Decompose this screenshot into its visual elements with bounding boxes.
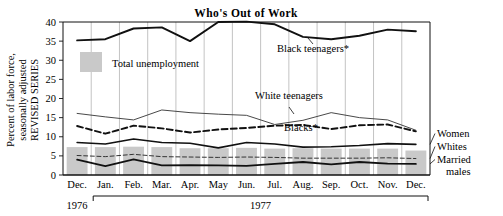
right-series-label: Whites (437, 141, 467, 152)
total-unemployment-bar (321, 149, 342, 175)
y-axis-tick-label: 30 (46, 55, 57, 66)
total-unemployment-bar (208, 148, 229, 175)
right-series-label: males (446, 166, 471, 177)
x-axis-month-label: Apr. (181, 179, 199, 190)
x-axis-year-label: 1977 (250, 200, 271, 211)
series-annotation: Black teenagers* (277, 43, 349, 54)
total-unemployment-bar (264, 149, 285, 175)
unemployment-line-chart: Who's Out of Work Percent of labor force… (0, 0, 503, 216)
right-series-label: Women (437, 128, 470, 139)
x-axis-month-label: Aug. (293, 179, 314, 190)
x-axis-month-label: Oct. (351, 179, 369, 190)
x-axis-month-label: Feb. (124, 179, 142, 190)
x-axis-month-label: Jan. (97, 179, 114, 190)
x-axis-month-label: Dec. (406, 179, 426, 190)
x-axis-month-label: Jun. (238, 179, 255, 190)
y-axis-label-line3: REVISED SERIES (29, 59, 40, 141)
right-series-label: Married (437, 154, 472, 165)
x-axis-month-label: Nov. (378, 179, 398, 190)
y-axis-tick-label: 20 (46, 93, 57, 104)
y-axis-tick-label: 5 (51, 150, 56, 161)
chart-title: Who's Out of Work (194, 7, 298, 19)
total-unemployment-bar (405, 151, 426, 175)
y-axis-label-line1: Percent of labor force, (5, 53, 16, 147)
x-axis-month-label: Jul. (267, 179, 282, 190)
series-annotation: Blacks* (284, 122, 318, 133)
y-axis-tick-label: 25 (46, 74, 57, 85)
legend-label-total-unemployment: Total unemployment (112, 58, 199, 69)
total-unemployment-bar (377, 149, 398, 175)
y-axis-tick-label: 10 (46, 131, 57, 142)
total-unemployment-bar (236, 148, 257, 175)
y-axis-label-line2: seasonally adjusted (17, 59, 28, 141)
x-axis-month-label: Mar. (152, 179, 172, 190)
total-unemployment-bar (180, 148, 201, 175)
chart-figure: Who's Out of Work Percent of labor force… (0, 0, 503, 216)
x-axis-year-label: 1976 (67, 200, 88, 211)
series-annotation: White teenagers (255, 90, 323, 101)
x-axis-month-label: Dec. (67, 179, 87, 190)
total-unemployment-bar (151, 147, 172, 175)
x-axis-month-label: Sep. (322, 179, 340, 190)
total-unemployment-bar (95, 147, 116, 175)
y-axis-tick-label: 40 (46, 17, 57, 28)
legend-swatch-total-unemployment (80, 52, 102, 72)
y-axis-tick-label: 0 (51, 170, 56, 181)
y-axis-tick-label: 35 (46, 36, 57, 47)
x-axis-month-label: May (209, 179, 229, 190)
y-axis-label: Percent of labor force, seasonally adjus… (5, 53, 40, 147)
y-axis-tick-label: 15 (46, 112, 57, 123)
